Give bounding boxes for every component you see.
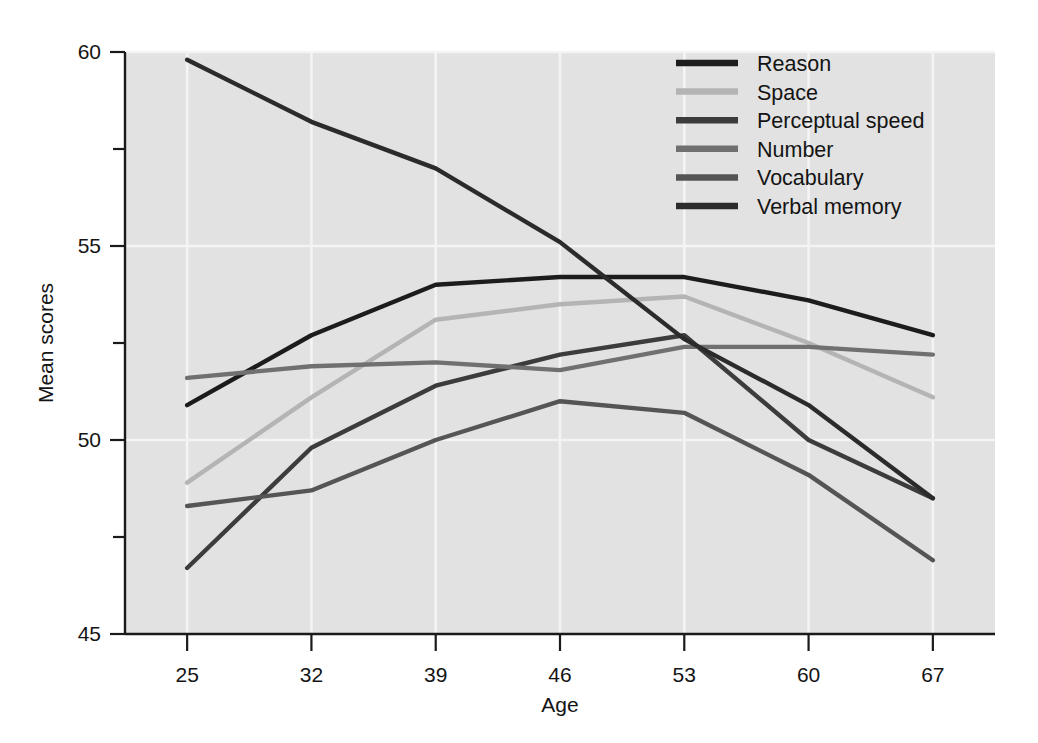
y-tick-label-55: 55 — [78, 234, 101, 257]
y-tick-label-60: 60 — [78, 40, 101, 63]
x-tick-label-32: 32 — [300, 663, 323, 686]
y-tick-label-45: 45 — [78, 622, 101, 645]
legend-label-verbal-memory: Verbal memory — [757, 195, 902, 219]
legend-label-space: Space — [757, 81, 818, 105]
x-tick-label-60: 60 — [797, 663, 820, 686]
chart-figure: 45505560 25323946536067 Mean scores Age … — [0, 0, 1038, 743]
legend-label-number: Number — [757, 138, 833, 162]
x-axis-title: Age — [541, 693, 578, 716]
legend-label-vocabulary: Vocabulary — [757, 166, 864, 190]
y-axis-title: Mean scores — [34, 283, 57, 403]
y-tick-label-50: 50 — [78, 428, 101, 451]
x-tick-label-67: 67 — [921, 663, 944, 686]
x-tick-label-53: 53 — [673, 663, 696, 686]
legend-label-perceptual-speed: Perceptual speed — [757, 109, 924, 133]
x-tick-label-25: 25 — [175, 663, 198, 686]
line-chart: 45505560 25323946536067 Mean scores Age … — [0, 0, 1038, 743]
legend-label-reason: Reason — [757, 52, 831, 76]
x-tick-label-46: 46 — [548, 663, 571, 686]
x-tick-label-39: 39 — [424, 663, 447, 686]
